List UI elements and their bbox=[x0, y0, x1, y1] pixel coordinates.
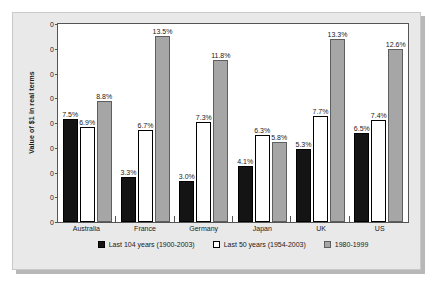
bar-value-label: 6.7% bbox=[138, 122, 154, 129]
bar-group-bars: 4.1%6.3%5.8% bbox=[233, 24, 291, 222]
chart-legend: Last 104 years (1900-2003)Last 50 years … bbox=[57, 241, 409, 248]
bar[interactable] bbox=[80, 127, 95, 222]
y-axis-tick-label: 0 bbox=[18, 144, 58, 151]
bar-value-label: 7.7% bbox=[312, 108, 328, 115]
bar[interactable] bbox=[313, 116, 328, 222]
bar-group: 3.3%6.7%13.5% bbox=[116, 24, 174, 222]
x-axis-category-label: UK bbox=[292, 225, 351, 232]
bar-group: 7.5%6.9%8.8% bbox=[58, 24, 116, 222]
y-axis-tick-label: 0 bbox=[18, 21, 58, 28]
x-axis-category-label: Australia bbox=[57, 225, 116, 232]
bar-value-label: 6.5% bbox=[354, 125, 370, 132]
chart-panel: Value of $1 in real terms 000000000 7.5%… bbox=[12, 12, 421, 270]
bar[interactable] bbox=[388, 49, 403, 222]
bar-item[interactable]: 5.3% bbox=[296, 24, 311, 222]
x-axis-labels: AustraliaFranceGermanyJapanUKUS bbox=[57, 225, 409, 232]
x-axis-category-label: US bbox=[350, 225, 409, 232]
bar[interactable] bbox=[371, 120, 386, 222]
legend-label: 1980-1999 bbox=[335, 241, 368, 248]
legend-label: Last 50 years (1954-2003) bbox=[224, 241, 306, 248]
bar-item[interactable]: 13.5% bbox=[155, 24, 170, 222]
bar-group: 4.1%6.3%5.8% bbox=[233, 24, 291, 222]
bar[interactable] bbox=[196, 122, 211, 222]
bar-item[interactable]: 7.4% bbox=[371, 24, 386, 222]
bar[interactable] bbox=[97, 101, 112, 222]
bar-item[interactable]: 11.8% bbox=[213, 24, 228, 222]
y-axis-tick-label: 0 bbox=[18, 194, 58, 201]
chart-area: Value of $1 in real terms 000000000 7.5%… bbox=[13, 13, 422, 271]
bar-value-label: 7.5% bbox=[62, 111, 78, 118]
bar-item[interactable]: 7.3% bbox=[196, 24, 211, 222]
x-axis-category-label: Japan bbox=[233, 225, 292, 232]
bar-item[interactable]: 6.7% bbox=[138, 24, 153, 222]
bar[interactable] bbox=[330, 39, 345, 222]
bar-item[interactable]: 13.3% bbox=[330, 24, 345, 222]
plot-area: 000000000 7.5%6.9%8.8%3.3%6.7%13.5%3.0%7… bbox=[57, 23, 409, 223]
bar[interactable] bbox=[179, 181, 194, 222]
bar-value-label: 11.8% bbox=[211, 52, 230, 59]
y-axis-tick-label: 0 bbox=[18, 120, 58, 127]
bar[interactable] bbox=[63, 119, 78, 222]
bar-item[interactable]: 6.9% bbox=[80, 24, 95, 222]
bar-value-label: 12.6% bbox=[386, 41, 406, 48]
bar[interactable] bbox=[121, 177, 136, 222]
bar-group: 5.3%7.7%13.3% bbox=[291, 24, 349, 222]
bar[interactable] bbox=[272, 142, 287, 222]
bar-value-label: 13.5% bbox=[153, 28, 173, 35]
legend-swatch-icon bbox=[213, 241, 220, 248]
bar-item[interactable]: 6.3% bbox=[255, 24, 270, 222]
bar[interactable] bbox=[354, 133, 369, 222]
bar-group-bars: 3.3%6.7%13.5% bbox=[116, 24, 174, 222]
bar-value-label: 8.8% bbox=[96, 93, 112, 100]
bar-value-label: 4.1% bbox=[237, 158, 253, 165]
bar-item[interactable]: 4.1% bbox=[238, 24, 253, 222]
plot-inner: 000000000 7.5%6.9%8.8%3.3%6.7%13.5%3.0%7… bbox=[58, 24, 408, 222]
bar-item[interactable]: 7.5% bbox=[63, 24, 78, 222]
bar-group-bars: 7.5%6.9%8.8% bbox=[58, 24, 116, 222]
y-axis-tick-label: 0 bbox=[18, 70, 58, 77]
bar[interactable] bbox=[138, 130, 153, 222]
bar-value-label: 3.0% bbox=[179, 173, 195, 180]
bar[interactable] bbox=[238, 166, 253, 222]
legend-item[interactable]: Last 50 years (1954-2003) bbox=[213, 241, 306, 248]
bar-value-label: 6.3% bbox=[254, 127, 270, 134]
bar-item[interactable]: 3.0% bbox=[179, 24, 194, 222]
bar-item[interactable]: 8.8% bbox=[97, 24, 112, 222]
bar-group: 3.0%7.3%11.8% bbox=[175, 24, 233, 222]
bar-item[interactable]: 6.5% bbox=[354, 24, 369, 222]
bar-item[interactable]: 3.3% bbox=[121, 24, 136, 222]
bar[interactable] bbox=[213, 60, 228, 222]
bar-group-bars: 5.3%7.7%13.3% bbox=[291, 24, 349, 222]
bar-value-label: 5.3% bbox=[295, 141, 311, 148]
y-axis-tick-label: 0 bbox=[18, 169, 58, 176]
bar[interactable] bbox=[296, 149, 311, 222]
x-axis-category-label: Germany bbox=[174, 225, 233, 232]
bar-value-label: 7.4% bbox=[371, 112, 387, 119]
bar-item[interactable]: 7.7% bbox=[313, 24, 328, 222]
legend-label: Last 104 years (1900-2003) bbox=[109, 241, 195, 248]
bar-value-label: 13.3% bbox=[328, 31, 348, 38]
legend-item[interactable]: Last 104 years (1900-2003) bbox=[98, 241, 195, 248]
bar-value-label: 3.3% bbox=[121, 169, 137, 176]
bar-group-bars: 6.5%7.4%12.6% bbox=[350, 24, 408, 222]
bar[interactable] bbox=[155, 36, 170, 222]
bar[interactable] bbox=[255, 135, 270, 222]
chart-screenshot: Value of $1 in real terms 000000000 7.5%… bbox=[0, 0, 432, 281]
bar-group-bars: 3.0%7.3%11.8% bbox=[175, 24, 233, 222]
y-axis-tick-label: 0 bbox=[18, 219, 58, 226]
bar-group: 6.5%7.4%12.6% bbox=[350, 24, 408, 222]
bar-value-label: 5.8% bbox=[271, 134, 287, 141]
y-axis-tick-label: 0 bbox=[18, 95, 58, 102]
legend-swatch-icon bbox=[324, 241, 331, 248]
x-axis-category-label: France bbox=[116, 225, 175, 232]
y-axis-title: Value of $1 in real terms bbox=[28, 43, 35, 183]
bar-item[interactable]: 5.8% bbox=[272, 24, 287, 222]
y-axis-tick-mark bbox=[55, 222, 58, 223]
bar-groups: 7.5%6.9%8.8%3.3%6.7%13.5%3.0%7.3%11.8%4.… bbox=[58, 24, 408, 222]
bar-item[interactable]: 12.6% bbox=[388, 24, 403, 222]
bar-value-label: 7.3% bbox=[196, 114, 212, 121]
legend-item[interactable]: 1980-1999 bbox=[324, 241, 368, 248]
y-axis-tick-label: 0 bbox=[18, 45, 58, 52]
legend-swatch-icon bbox=[98, 241, 105, 248]
bar-value-label: 6.9% bbox=[79, 119, 95, 126]
